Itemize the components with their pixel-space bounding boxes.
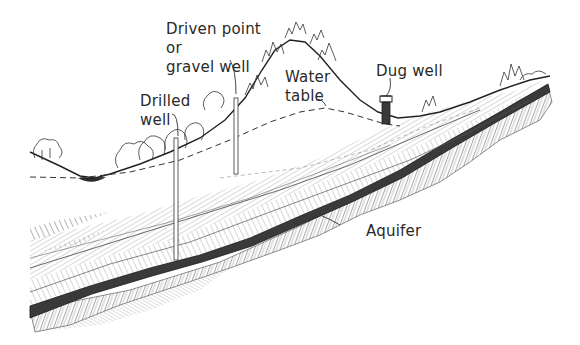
label-water-table-line2: table: [285, 87, 330, 106]
label-aquifer: Aquifer: [366, 222, 421, 241]
strata: [30, 78, 548, 306]
label-dug-well-text: Dug well: [376, 62, 443, 81]
groundwater-diagram: [0, 0, 580, 345]
drilled-well: [174, 138, 178, 260]
dug-well: [380, 96, 392, 124]
driven-point-well: [234, 98, 238, 174]
label-driven-point: Driven point or gravel well: [166, 20, 261, 77]
label-dug-well: Dug well: [376, 62, 443, 81]
label-water-table: Water table: [285, 68, 330, 106]
label-driven-point-line2: or: [166, 39, 261, 58]
label-drilled-well-line2: well: [140, 111, 190, 130]
label-driven-point-line1: Driven point: [166, 20, 261, 39]
label-aquifer-text: Aquifer: [366, 222, 421, 241]
label-drilled-well-line1: Drilled: [140, 92, 190, 111]
label-water-table-line1: Water: [285, 68, 330, 87]
label-drilled-well: Drilled well: [140, 92, 190, 130]
label-driven-point-line3: gravel well: [166, 58, 261, 77]
